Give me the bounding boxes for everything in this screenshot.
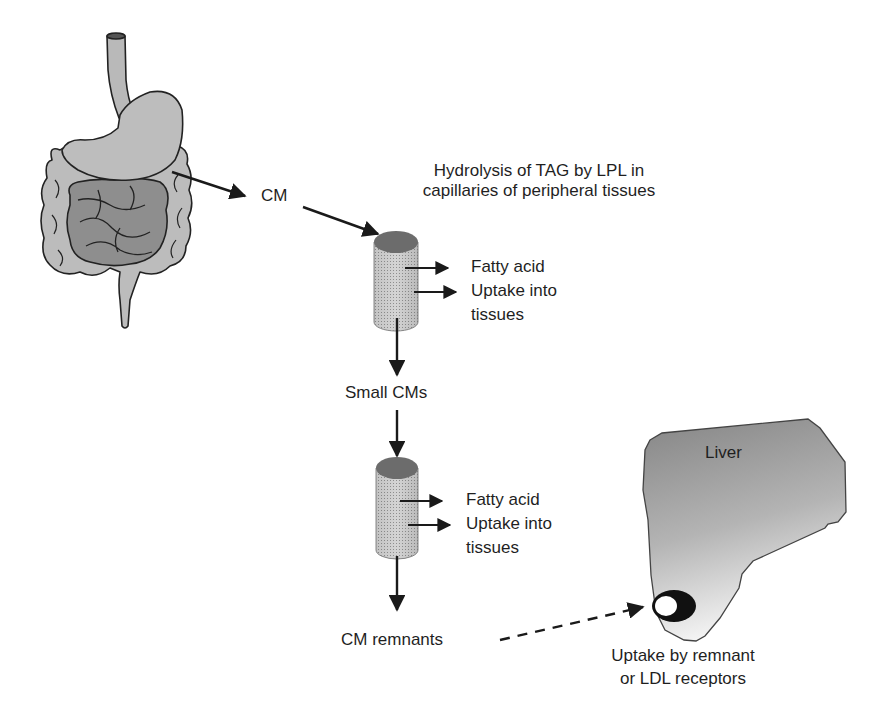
uptake-label-2-line2: tissues bbox=[466, 538, 552, 558]
hydrolysis-note-line1: Hydrolysis of TAG by LPL in bbox=[380, 161, 698, 181]
hydrolysis-note-line2: capillaries of peripheral tissues bbox=[380, 181, 698, 201]
liver-label: Liver bbox=[705, 443, 742, 463]
liver-icon bbox=[643, 419, 846, 641]
capillary-cylinder-icon bbox=[374, 231, 418, 331]
capillary-cylinder-icon bbox=[376, 457, 418, 559]
small-cms-label: Small CMs bbox=[345, 383, 427, 403]
cm-remnants-label: CM remnants bbox=[341, 630, 443, 650]
uptake-label-2: Uptake into tissues bbox=[466, 514, 552, 558]
fatty-acid-label-1: Fatty acid bbox=[471, 257, 545, 277]
receptor-icon bbox=[652, 590, 696, 622]
diagram-canvas bbox=[0, 0, 880, 720]
uptake-label-2-line1: Uptake into bbox=[466, 514, 552, 534]
arrow-cm-remnants-to-liver bbox=[500, 607, 643, 640]
liver-uptake-note: Uptake by remnant or LDL receptors bbox=[583, 646, 783, 689]
arrow-cm-to-capillary1 bbox=[303, 207, 378, 234]
uptake-label-1-line2: tissues bbox=[471, 305, 557, 325]
digestive-system-icon bbox=[41, 33, 192, 328]
cm-label: CM bbox=[261, 186, 287, 206]
liver-uptake-note-line1: Uptake by remnant bbox=[583, 646, 783, 666]
liver-uptake-note-line2: or LDL receptors bbox=[583, 669, 783, 689]
hydrolysis-note: Hydrolysis of TAG by LPL in capillaries … bbox=[380, 161, 698, 201]
uptake-label-1: Uptake into tissues bbox=[471, 281, 557, 325]
uptake-label-1-line1: Uptake into bbox=[471, 281, 557, 301]
fatty-acid-label-2: Fatty acid bbox=[466, 490, 540, 510]
